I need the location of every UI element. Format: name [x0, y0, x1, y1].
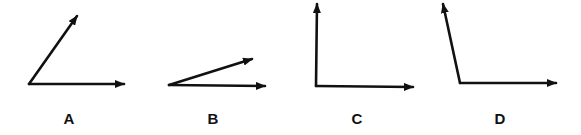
- angle-panel-b: B: [169, 59, 265, 127]
- angle-label: A: [64, 110, 75, 127]
- angle-panel-a: A: [29, 16, 124, 127]
- ray-arrow-2: [316, 4, 317, 86]
- angle-label: D: [495, 110, 506, 127]
- ray-arrow-2: [169, 59, 252, 85]
- ray-arrow-1: [169, 85, 265, 86]
- angle-panel-d: D: [443, 4, 556, 127]
- angle-label: C: [352, 110, 363, 127]
- ray-arrow-2: [29, 16, 77, 84]
- angle-label: B: [208, 110, 219, 127]
- angles-diagram: ABCD: [0, 0, 581, 135]
- ray-arrow-1: [316, 86, 413, 87]
- ray-arrow-2: [443, 4, 460, 83]
- angle-panel-c: C: [316, 4, 413, 127]
